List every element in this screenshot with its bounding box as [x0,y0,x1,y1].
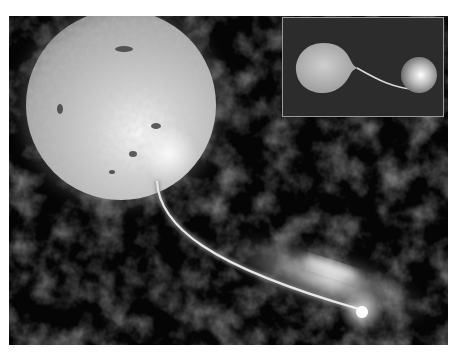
compact-companion [356,306,368,318]
inset-companion-star [401,57,437,93]
inset-panel [282,17,444,117]
inset-roche-lobe-scene [283,18,444,117]
illustration-frame [9,16,448,345]
roche-lobe-star [296,43,358,93]
